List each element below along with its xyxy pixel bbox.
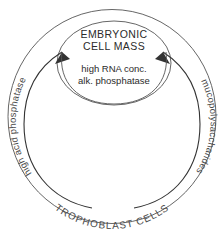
embryonic-cell-mass-title-line2: CELL MASS	[83, 40, 145, 52]
embryonic-cell-mass-detail-line1: high RNA conc.	[81, 63, 146, 74]
embryonic-cell-mass-title-line1: EMBRYONIC	[81, 28, 148, 40]
blastocyst-diagram: EMBRYONIC CELL MASS high RNA conc. alk. …	[0, 0, 224, 236]
diagram-canvas: EMBRYONIC CELL MASS high RNA conc. alk. …	[0, 0, 224, 236]
embryonic-cell-mass-detail-line2: alk. phosphatase	[78, 75, 150, 86]
right-arrow-head-icon	[155, 52, 170, 64]
trophoblast-cells-label-text: TROPHOBLAST CELLS	[53, 202, 171, 231]
trophoblast-cells-label: TROPHOBLAST CELLS	[53, 202, 171, 231]
